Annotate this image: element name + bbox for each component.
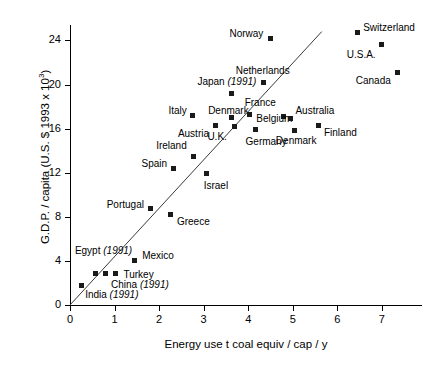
data-point-label: Egypt (1991) [75, 245, 132, 256]
data-point [148, 206, 153, 211]
data-point [79, 283, 84, 288]
data-point [213, 123, 218, 128]
data-point [190, 113, 195, 118]
data-point [292, 128, 297, 133]
data-point-label: China (1991) [111, 279, 169, 290]
data-point [103, 271, 108, 276]
data-point-label: Denmark [208, 105, 249, 116]
data-point-label: Norway [0, 28, 263, 39]
data-point [379, 42, 384, 47]
data-point-label: Switzerland [363, 22, 415, 33]
data-point-label: Belgium [256, 113, 292, 124]
data-point-label: U.S.A. [0, 49, 376, 60]
data-point-label: Mexico [142, 250, 174, 261]
data-point-label: Portugal [0, 199, 144, 210]
data-point-label: India (1991) [85, 289, 138, 300]
data-point-label: Italy [0, 105, 187, 116]
data-point [93, 271, 98, 276]
data-point-label: Spain [0, 158, 167, 169]
data-point [288, 116, 293, 121]
data-point-label: France [245, 97, 276, 108]
data-point [268, 36, 273, 41]
data-point [253, 127, 258, 132]
data-point [191, 154, 196, 159]
data-point [113, 271, 118, 276]
data-point [229, 91, 234, 96]
data-points-layer: India (1991)Egypt (1991)China (1991)Turk… [0, 0, 433, 369]
data-point [168, 212, 173, 217]
x-axis-title: Energy use t coal equiv / cap / y [70, 338, 422, 350]
data-point [204, 171, 209, 176]
data-point [132, 258, 137, 263]
data-point-label: Finland [324, 127, 357, 138]
data-point [355, 30, 360, 35]
data-point-label: U.K. [0, 131, 227, 142]
data-point [395, 70, 400, 75]
data-point-label: Turkey [123, 269, 153, 280]
data-point [316, 123, 321, 128]
data-point-label: Denmark [276, 135, 317, 146]
data-point [247, 112, 252, 117]
data-point-label: Canada [0, 75, 391, 86]
data-point-label: Australia [295, 105, 334, 116]
data-point [171, 166, 176, 171]
gdp-energy-scatter-chart: G.D.P. / capita (U.S. $ 1993 x 103) 0123… [0, 0, 433, 369]
data-point [232, 124, 237, 129]
data-point-label: Israel [204, 180, 228, 191]
data-point-label: Greece [177, 216, 210, 227]
